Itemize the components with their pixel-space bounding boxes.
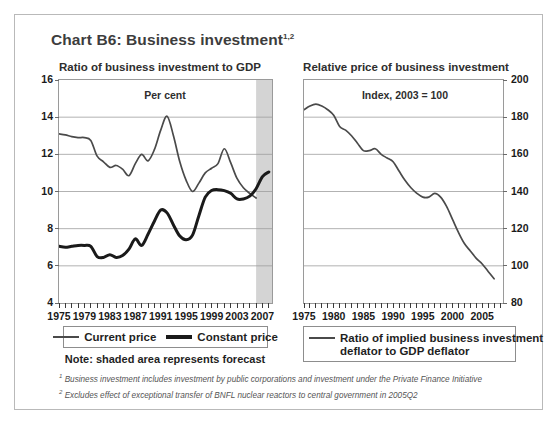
page-title: Chart B6: Business investment1,2 [51,31,294,49]
right-chart-x-tick-mark [351,303,352,308]
left-chart-x-tick-mark [141,303,142,308]
left-chart-x-tick-mark [135,303,136,308]
left-chart-x-tick-mark [230,303,231,308]
left-chart-y-tick-label: 16 [25,73,53,85]
left-chart-x-tick-mark [128,303,129,308]
left-chart-y-tick-mark [55,154,59,155]
legend-swatch-relative-price [309,337,335,339]
right-chart-y-tick-mark [503,80,507,81]
right-chart-x-tick-mark [381,303,382,308]
left-chart-x-tick-mark [160,303,161,308]
right-chart-y-tick-mark [503,154,507,155]
footnote-1-marker: 1 [59,373,62,379]
right-chart-x-tick-mark [369,303,370,308]
left-chart-y-tick-label: 4 [25,296,53,308]
left-chart-x-tick-mark [148,303,149,308]
right-chart-x-tick-label: 2005 [465,310,499,322]
right-chart-x-tick-mark [309,303,310,308]
left-chart-x-tick-mark [205,303,206,308]
left-chart-x-tick-mark [224,303,225,308]
right-chart-x-tick-mark [470,303,471,308]
legend-swatch-current-price [53,336,79,338]
left-chart-x-tick-mark [122,303,123,308]
right-chart-plot [303,79,504,304]
right-panel-heading: Relative price of business investment [291,61,521,73]
legend-item-relative-price-line1: Ratio of implied business investment [309,332,543,344]
right-chart-x-tick-mark [434,303,435,308]
right-chart-x-tick-mark [494,303,495,308]
left-chart-x-tick-mark [186,303,187,308]
left-chart-x-tick-mark [84,303,85,308]
right-panel-subtitle: Index, 2003 = 100 [325,89,485,101]
left-chart-x-tick-mark [109,303,110,308]
right-chart-y-tick-mark [503,117,507,118]
right-chart-y-tick-label: 180 [511,110,541,122]
footnote-2-marker: 2 [59,389,62,395]
left-chart-x-tick-mark [249,303,250,308]
left-chart-x-tick-mark [256,303,257,308]
right-chart-x-tick-mark [363,303,364,308]
right-chart-y-tick-label: 80 [511,296,541,308]
left-chart-y-tick-label: 6 [25,259,53,271]
left-chart-x-tick-mark [268,303,269,308]
left-chart-x-tick-mark [217,303,218,308]
right-chart-x-tick-mark [333,303,334,308]
right-chart-y-tick-label: 140 [511,185,541,197]
left-chart-x-tick-mark [90,303,91,308]
left-chart-x-tick-mark [167,303,168,308]
left-chart-y-tick-label: 14 [25,110,53,122]
left-chart-y-tick-label: 12 [25,147,53,159]
left-chart-y-tick-mark [55,191,59,192]
right-chart-x-tick-mark [399,303,400,308]
right-chart-y-tick-mark [503,265,507,266]
right-chart-x-tick-mark [410,303,411,308]
right-chart-x-tick-mark [488,303,489,308]
right-chart-x-tick-mark [428,303,429,308]
right-chart-x-tick-mark [387,303,388,308]
chart-title-superscript: 1,2 [283,32,294,41]
right-chart-x-tick-mark [446,303,447,308]
left-chart-x-tick-mark [211,303,212,308]
right-chart-y-tick-mark [503,303,507,304]
left-chart-x-tick-mark [192,303,193,308]
right-chart-x-tick-mark [357,303,358,308]
left-chart-x-tick-mark [97,303,98,308]
left-chart-x-tick-mark [103,303,104,308]
right-chart-y-tick-mark [503,191,507,192]
legend-swatch-constant-price [166,335,192,339]
right-chart-x-tick-mark [422,303,423,308]
left-chart-legend: Current price Constant price [63,326,268,348]
right-chart-x-tick-mark [321,303,322,308]
right-chart-x-tick-mark [500,303,501,308]
right-chart-x-tick-mark [327,303,328,308]
right-chart-x-tick-mark [404,303,405,308]
right-chart-legend: Ratio of implied business investment def… [303,326,516,362]
left-chart-x-tick-mark [116,303,117,308]
footnote-1: 1 Business investment includes investmen… [59,373,482,384]
left-chart-x-tick-mark [65,303,66,308]
right-chart-x-tick-mark [464,303,465,308]
right-chart-x-tick-mark [452,303,453,308]
right-chart-x-tick-mark [393,303,394,308]
right-chart-x-tick-mark [304,303,305,308]
left-chart-svg [59,80,272,303]
legend-item-constant-price: Constant price [166,331,278,343]
left-chart-plot [58,79,273,304]
legend-label-current-price: Current price [84,331,156,343]
left-chart-x-tick-mark [262,303,263,308]
legend-spacer [309,350,335,352]
left-chart-y-tick-mark [55,117,59,118]
right-chart-y-tick-label: 160 [511,147,541,159]
right-chart-x-tick-mark [458,303,459,308]
legend-label-relative-price-line2: deflator to GDP deflator [340,345,470,357]
right-chart-y-tick-label: 100 [511,259,541,271]
right-chart-x-tick-mark [375,303,376,308]
chart-frame: Chart B6: Business investment1,2 Ratio o… [14,14,543,410]
footnote-2: 2 Excludes effect of exceptional transfe… [59,389,418,400]
footnote-1-text: Business investment includes investment … [65,375,482,384]
right-chart-x-tick-mark [482,303,483,308]
left-panel-heading: Ratio of business investment to GDP [45,61,275,73]
legend-item-relative-price-line2: deflator to GDP deflator [309,345,543,357]
right-chart-x-tick-mark [476,303,477,308]
left-chart-x-tick-mark [71,303,72,308]
